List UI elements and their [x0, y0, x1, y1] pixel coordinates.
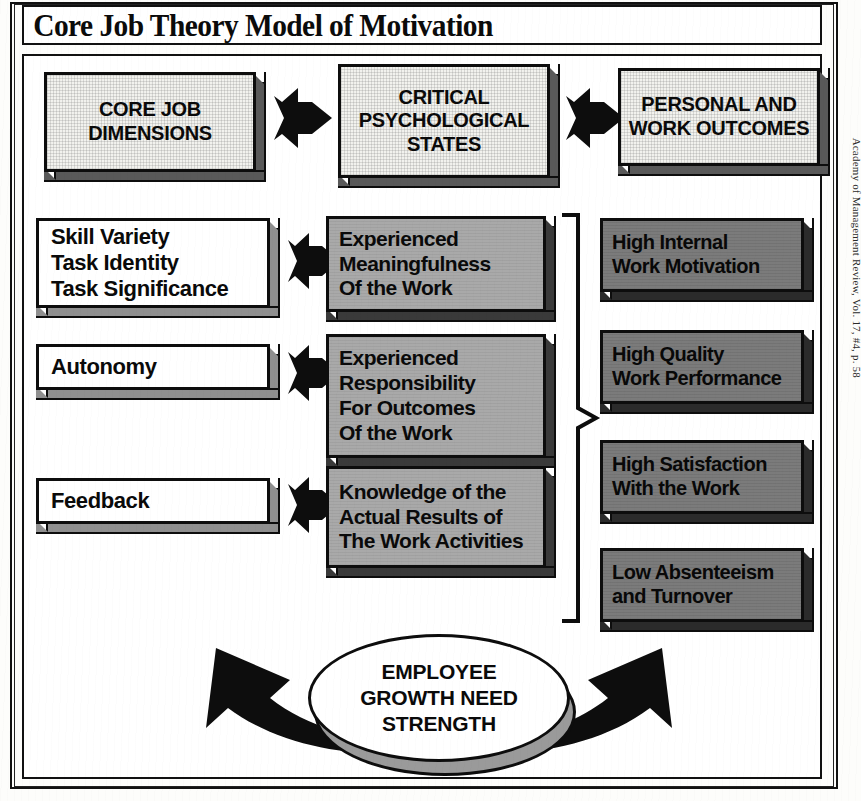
dimension-box-autonomy: Autonomy: [36, 344, 280, 400]
arrow-dimensions-to-states-header: [272, 82, 334, 154]
state-label: Experienced Responsibility For Outcomes …: [329, 346, 476, 445]
box-face: High Satisfaction With the Work: [600, 440, 804, 514]
outcome-label: High Quality Work Performance: [603, 343, 781, 390]
box-face: PERSONAL AND WORK OUTCOMES: [618, 68, 820, 166]
outcome-label: High Internal Work Motivation: [603, 231, 760, 278]
box-face: High Internal Work Motivation: [600, 218, 804, 292]
state-label: Experienced Meaningfulness Of the Work: [329, 227, 491, 301]
state-box-experienced-responsibility: Experienced Responsibility For Outcomes …: [326, 334, 556, 468]
header-label: CRITICAL PSYCHOLOGICAL STATES: [359, 86, 530, 157]
box-face: Knowledge of the Actual Results of The W…: [326, 466, 546, 568]
box-face: CRITICAL PSYCHOLOGICAL STATES: [338, 64, 550, 178]
outcome-box-high-quality-work-performance: High Quality Work Performance: [600, 330, 814, 414]
dimension-box-feedback: Feedback: [36, 478, 280, 534]
moderator-label: EMPLOYEE GROWTH NEED STRENGTH: [360, 659, 518, 738]
state-box-knowledge-of-results: Knowledge of the Actual Results of The W…: [326, 466, 556, 578]
box-face: Skill Variety Task Identity Task Signifi…: [36, 218, 270, 308]
outcome-box-low-absenteeism: Low Absenteeism and Turnover: [600, 548, 814, 632]
arrow-states-to-outcomes-header: [564, 82, 626, 154]
header-label: CORE JOB DIMENSIONS: [88, 98, 212, 145]
box-face: Feedback: [36, 478, 270, 524]
moderator-oval: EMPLOYEE GROWTH NEED STRENGTH: [308, 634, 570, 762]
dimension-label: Feedback: [39, 488, 149, 514]
dimension-box-skill-variety: Skill Variety Task Identity Task Signifi…: [36, 218, 280, 318]
outcome-label: High Satisfaction With the Work: [603, 453, 767, 500]
box-face: CORE JOB DIMENSIONS: [44, 72, 256, 172]
state-box-experienced-meaningfulness: Experienced Meaningfulness Of the Work: [326, 216, 556, 322]
dimension-label: Skill Variety Task Identity Task Signifi…: [39, 224, 228, 302]
outcome-label: Low Absenteeism and Turnover: [603, 561, 774, 608]
title-box: Core Job Theory Model of Motivation: [22, 5, 822, 45]
box-face: Experienced Meaningfulness Of the Work: [326, 216, 546, 312]
dimension-label: Autonomy: [39, 354, 157, 380]
box-face: High Quality Work Performance: [600, 330, 804, 404]
page-title: Core Job Theory Model of Motivation: [24, 7, 493, 44]
box-face: Autonomy: [36, 344, 270, 390]
header-label: PERSONAL AND WORK OUTCOMES: [629, 93, 810, 140]
header-core-job-dimensions: CORE JOB DIMENSIONS: [44, 72, 266, 182]
grouping-brace: [556, 212, 602, 624]
outcome-box-high-internal-work-motivation: High Internal Work Motivation: [600, 218, 814, 302]
box-face: Experienced Responsibility For Outcomes …: [326, 334, 546, 458]
header-personal-and-work-outcomes: PERSONAL AND WORK OUTCOMES: [618, 68, 830, 176]
header-critical-psychological-states: CRITICAL PSYCHOLOGICAL STATES: [338, 64, 560, 188]
box-face: Low Absenteeism and Turnover: [600, 548, 804, 622]
state-label: Knowledge of the Actual Results of The W…: [329, 480, 523, 554]
source-credit: Academy of Management Review, Vol. 17, #…: [851, 138, 863, 378]
oval-face: EMPLOYEE GROWTH NEED STRENGTH: [308, 634, 570, 762]
outcome-box-high-satisfaction: High Satisfaction With the Work: [600, 440, 814, 524]
